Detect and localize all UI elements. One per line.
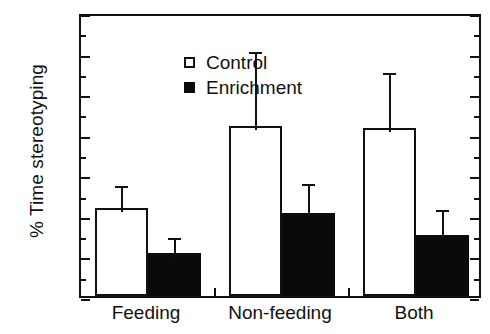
- y-tick-minor: [81, 116, 86, 118]
- legend-item-control: Control: [184, 50, 302, 75]
- y-tick-major: [81, 218, 90, 220]
- filled-square-icon: [184, 82, 195, 93]
- bar-control-feeding: [95, 208, 148, 296]
- open-square-icon: [184, 57, 195, 68]
- y-tick-major: [470, 299, 479, 301]
- y-tick-major: [81, 15, 90, 17]
- y-tick-minor: [81, 238, 86, 240]
- y-tick-major: [81, 137, 90, 139]
- y-axis-title: % Time stereotyping: [26, 26, 48, 276]
- y-tick-major: [470, 137, 479, 139]
- legend-label-control: Control: [206, 53, 267, 72]
- bar-control-non-feeding: [229, 126, 282, 296]
- plot-area: 05101520253035 Control Enrichment: [79, 14, 481, 298]
- y-tick-major: [470, 96, 479, 98]
- error-bar-line: [308, 184, 310, 217]
- y-tick-minor: [474, 157, 479, 159]
- y-tick-major: [81, 56, 90, 58]
- y-tick-minor: [81, 76, 86, 78]
- error-bar-line: [121, 186, 123, 211]
- error-bar-cap: [302, 184, 315, 186]
- x-tick: [348, 288, 350, 296]
- y-tick-minor: [81, 279, 86, 281]
- y-tick-major: [470, 218, 479, 220]
- x-axis-label-feeding: Feeding: [79, 302, 213, 324]
- bar-chart-figure: % Time stereotyping 05101520253035 Contr…: [0, 0, 490, 334]
- y-tick-major: [470, 56, 479, 58]
- y-tick-major: [81, 258, 90, 260]
- y-tick-minor: [81, 198, 86, 200]
- y-tick-major: [81, 177, 90, 179]
- error-bar-cap: [383, 73, 396, 75]
- legend-label-enrichment: Enrichment: [206, 78, 302, 97]
- x-tick: [214, 288, 216, 296]
- error-bar-line: [389, 73, 391, 132]
- error-bar-line: [442, 210, 444, 239]
- bar-enrichment-feeding: [148, 253, 201, 296]
- y-tick-major: [470, 258, 479, 260]
- error-bar-cap: [436, 210, 449, 212]
- y-tick-major: [81, 96, 90, 98]
- bar-enrichment-non-feeding: [282, 213, 335, 296]
- y-tick-minor: [474, 76, 479, 78]
- y-tick-major: [470, 177, 479, 179]
- y-tick-major: [81, 299, 90, 301]
- bar-control-both: [363, 128, 416, 296]
- y-tick-minor: [474, 116, 479, 118]
- chart-legend: Control Enrichment: [184, 50, 302, 100]
- y-tick-minor: [81, 157, 86, 159]
- y-tick-major: [470, 15, 479, 17]
- y-tick-minor: [474, 35, 479, 37]
- error-bar-line: [174, 238, 176, 257]
- error-bar-cap: [168, 238, 181, 240]
- y-tick-minor: [81, 35, 86, 37]
- x-axis-label-both: Both: [347, 302, 481, 324]
- y-tick-minor: [474, 238, 479, 240]
- bar-enrichment-both: [416, 235, 469, 296]
- x-axis-label-non-feeding: Non-feeding: [213, 302, 347, 324]
- legend-item-enrichment: Enrichment: [184, 75, 302, 100]
- error-bar-cap: [115, 186, 128, 188]
- y-tick-minor: [474, 198, 479, 200]
- y-tick-minor: [474, 279, 479, 281]
